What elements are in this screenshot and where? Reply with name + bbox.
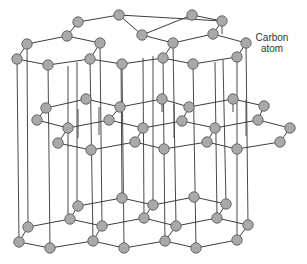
carbon-atom (85, 54, 95, 64)
carbon-atom (41, 103, 51, 113)
carbon-atom (138, 123, 148, 133)
carbon-bond (102, 218, 144, 226)
carbon-atom (139, 213, 149, 223)
carbon-bond (164, 142, 207, 149)
carbon-atom (221, 199, 231, 209)
top-carbon-layer (12, 10, 251, 70)
carbon-bond (91, 142, 135, 150)
carbon-atom (86, 145, 96, 155)
carbon-atom (253, 115, 263, 125)
interlayer-line (17, 59, 19, 242)
interlayer-line (48, 65, 50, 248)
carbon-atom (130, 137, 140, 147)
carbon-atom (12, 54, 22, 64)
carbon-atom (184, 102, 194, 112)
carbon-atom (189, 192, 199, 202)
carbon-atom (81, 94, 91, 104)
carbon-atom (137, 30, 147, 40)
carbon-atom (232, 144, 242, 154)
carbon-atom (241, 38, 251, 48)
carbon-atom (43, 60, 53, 70)
carbon-atom (23, 222, 33, 232)
carbon-atom (171, 221, 181, 231)
carbon-atom-label-line1: Carbon (252, 32, 292, 43)
carbon-atom (158, 53, 168, 63)
interlayer-line (215, 62, 217, 218)
carbon-bond (153, 197, 194, 205)
carbon-atom (232, 235, 242, 245)
carbon-atom (14, 237, 24, 247)
carbon-atom (32, 115, 42, 125)
carbon-atom (217, 16, 227, 26)
carbon-atom-label-line2: atom (252, 43, 292, 54)
carbon-atom (208, 29, 218, 39)
carbon-bond (28, 219, 70, 227)
carbon-atom (95, 38, 105, 48)
carbon-bond (27, 36, 67, 44)
carbon-bond (120, 99, 162, 107)
carbon-atom (285, 123, 295, 133)
carbon-atom (22, 39, 32, 49)
carbon-atom (232, 52, 242, 62)
carbon-bond (48, 59, 90, 65)
carbon-atom (191, 243, 201, 253)
carbon-atom (259, 101, 269, 111)
carbon-atom (160, 236, 170, 246)
carbon-bond (46, 99, 86, 108)
carbon-atom (157, 94, 167, 104)
carbon-bond (237, 142, 280, 149)
carbon-bond (50, 241, 93, 248)
carbon-atom (88, 236, 98, 246)
carbon-atom (45, 243, 55, 253)
carbon-atom (73, 17, 83, 27)
interlayer-line (27, 44, 28, 227)
middle-carbon-layer (32, 94, 295, 155)
interlayer-line (143, 58, 144, 218)
carbon-atom (187, 10, 197, 20)
carbon-atom (117, 193, 127, 203)
carbon-atom (62, 31, 72, 41)
carbon-bond (189, 99, 233, 107)
carbon-atom-label: Carbon atom (252, 32, 292, 54)
carbon-atom (115, 102, 125, 112)
carbon-atom (63, 123, 73, 133)
carbon-atom (104, 115, 114, 125)
carbon-bond (196, 240, 237, 248)
carbon-atom (188, 59, 198, 69)
carbon-atom (202, 137, 212, 147)
interlayer-line (122, 64, 124, 248)
carbon-atom (114, 10, 124, 20)
carbon-bond (78, 198, 122, 206)
interlayer-line (193, 64, 196, 248)
carbon-atom (53, 138, 63, 148)
carbon-atom (117, 59, 127, 69)
carbon-bond (122, 58, 163, 64)
carbon-bond (68, 120, 109, 128)
carbon-atom (97, 221, 107, 231)
carbon-bond (78, 15, 119, 22)
carbon-atom (148, 200, 158, 210)
interlayer-line (100, 43, 102, 226)
carbon-atom (159, 144, 169, 154)
carbon-bond (124, 241, 165, 248)
interlayer-line (223, 60, 226, 204)
carbon-atom (210, 123, 220, 133)
carbon-atom (73, 201, 83, 211)
carbon-bond (176, 218, 217, 226)
carbon-atom (243, 220, 253, 230)
carbon-atom (228, 94, 238, 104)
carbon-atom (168, 38, 178, 48)
carbon-atom (212, 213, 222, 223)
carbon-atom (177, 116, 187, 126)
carbon-atom (275, 137, 285, 147)
carbon-bond (173, 34, 213, 43)
carbon-atom (65, 214, 75, 224)
carbon-atom (119, 243, 129, 253)
carbon-bond (143, 121, 182, 128)
